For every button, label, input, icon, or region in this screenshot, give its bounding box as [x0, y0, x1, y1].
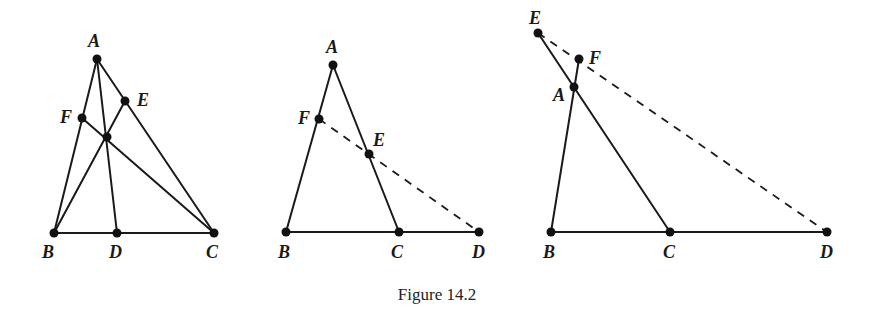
point-d	[113, 229, 122, 238]
point-a	[329, 61, 338, 70]
side-ab	[286, 65, 333, 232]
side-ac	[333, 65, 399, 232]
point-c	[395, 228, 404, 237]
figure-2: A B C D E F	[277, 37, 485, 262]
figure-caption: Figure 14.2	[398, 285, 476, 304]
point-a	[570, 83, 579, 92]
point-f	[575, 55, 584, 64]
label-f: F	[588, 48, 601, 68]
label-c: C	[206, 242, 219, 262]
point-b	[50, 229, 59, 238]
point-d	[823, 228, 832, 237]
point-e	[534, 29, 543, 38]
label-c: C	[663, 242, 676, 262]
label-e: E	[372, 130, 385, 150]
label-b: B	[41, 242, 54, 262]
transversal-ed	[538, 33, 827, 232]
point-c	[666, 228, 675, 237]
point-d	[475, 228, 484, 237]
label-d: D	[819, 242, 833, 262]
figure-canvas: A B D C E F A B C D E F E F	[0, 0, 879, 315]
transversal-fd	[319, 119, 479, 232]
label-d: D	[471, 242, 485, 262]
point-e	[121, 97, 130, 106]
side-ab	[54, 59, 97, 233]
label-c: C	[391, 242, 404, 262]
point-f	[78, 114, 87, 123]
label-a: A	[325, 37, 338, 57]
label-e: E	[528, 8, 541, 28]
label-b: B	[542, 242, 555, 262]
point-e	[365, 150, 374, 159]
label-e: E	[136, 90, 149, 110]
figure-3: E F A B C D	[528, 8, 833, 262]
point-a	[93, 55, 102, 64]
figure-1: A B D C E F	[41, 31, 219, 262]
point-c	[210, 229, 219, 238]
label-a: A	[87, 31, 100, 51]
point-concurrency	[103, 133, 112, 142]
point-f	[315, 115, 324, 124]
point-b	[547, 228, 556, 237]
label-d: D	[108, 242, 122, 262]
label-b: B	[277, 242, 290, 262]
point-b	[282, 228, 291, 237]
label-f: F	[59, 107, 72, 127]
label-a: A	[552, 85, 565, 105]
line-ec	[538, 33, 670, 232]
label-f: F	[297, 108, 310, 128]
